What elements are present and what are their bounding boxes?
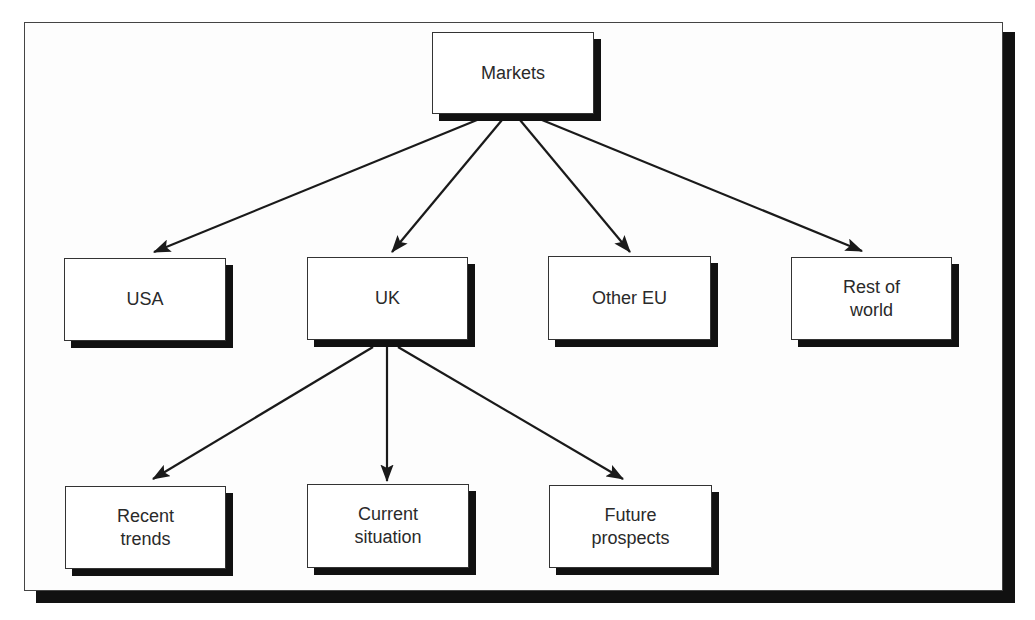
node-label-uk: UK bbox=[375, 287, 400, 310]
node-label-other-eu: Other EU bbox=[592, 287, 667, 310]
node-markets: Markets bbox=[432, 32, 594, 114]
node-label-usa: USA bbox=[126, 288, 163, 311]
node-label-recent-trends: Recent trends bbox=[117, 505, 174, 551]
node-label-future-prospects: Future prospects bbox=[591, 504, 669, 550]
node-label-rest-of-world: Rest of world bbox=[843, 276, 900, 322]
node-uk: UK bbox=[307, 257, 468, 340]
node-recent-trends: Recent trends bbox=[65, 486, 226, 569]
node-rest-of-world: Rest of world bbox=[791, 257, 952, 340]
node-label-current-situation: Current situation bbox=[354, 503, 421, 549]
node-future-prospects: Future prospects bbox=[549, 485, 712, 568]
node-other-eu: Other EU bbox=[548, 256, 711, 340]
node-usa: USA bbox=[64, 258, 226, 341]
node-label-markets: Markets bbox=[481, 62, 545, 85]
node-current-situation: Current situation bbox=[307, 484, 469, 568]
